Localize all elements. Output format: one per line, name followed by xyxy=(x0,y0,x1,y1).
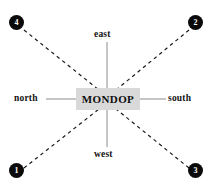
node-marker-bottom-left: 1 xyxy=(9,163,24,178)
center-node-box: MONDOP xyxy=(76,88,140,110)
cardinal-label-top: east xyxy=(94,30,111,40)
node-marker-top-right: 2 xyxy=(188,15,203,30)
node-marker-label: 3 xyxy=(194,167,198,175)
cardinal-label-bottom: west xyxy=(94,150,113,160)
node-marker-top-left: 4 xyxy=(9,15,24,30)
node-marker-label: 2 xyxy=(194,19,198,27)
diagonal-line-to-node-4 xyxy=(24,30,99,90)
diagonal-line-to-node-3 xyxy=(116,109,189,168)
diagonal-line-to-node-2 xyxy=(116,30,189,90)
diagonal-line-to-node-1 xyxy=(24,109,99,168)
center-node-label: MONDOP xyxy=(82,93,135,105)
node-marker-label: 1 xyxy=(15,167,19,175)
cardinal-label-right: south xyxy=(168,94,191,104)
cardinal-label-left: north xyxy=(14,94,38,104)
node-marker-bottom-right: 3 xyxy=(188,163,203,178)
node-marker-label: 4 xyxy=(15,19,19,27)
mondop-orientation-diagram: east west north south MONDOP 4 2 1 3 xyxy=(0,0,213,189)
